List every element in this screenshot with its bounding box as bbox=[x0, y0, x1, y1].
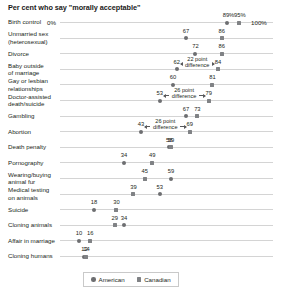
row-axis-line bbox=[60, 116, 273, 117]
row-label: Pornography bbox=[8, 159, 60, 166]
row-label: Death penalty bbox=[8, 143, 60, 150]
data-point-american bbox=[158, 192, 162, 196]
row-label: Unmarried sex (heterosexual) bbox=[8, 30, 60, 45]
data-point-american bbox=[225, 21, 229, 25]
legend-label-american: American bbox=[99, 276, 125, 283]
data-point-american bbox=[139, 130, 143, 134]
value-label-american: 67 bbox=[183, 106, 189, 112]
square-marker-icon bbox=[137, 277, 142, 282]
row-axis-line bbox=[60, 84, 273, 85]
data-point-canadian bbox=[88, 239, 92, 243]
legend-item-canadian: Canadian bbox=[137, 276, 171, 283]
value-label-canadian: 86 bbox=[219, 43, 225, 49]
data-point-american bbox=[122, 161, 126, 165]
data-point-american bbox=[92, 208, 96, 212]
row-axis-line bbox=[60, 194, 273, 195]
data-point-canadian bbox=[143, 177, 147, 181]
value-label-american: 10 bbox=[76, 230, 82, 236]
value-label-canadian: 73 bbox=[194, 106, 200, 112]
row-label: Abortion bbox=[8, 128, 60, 135]
data-point-canadian bbox=[188, 130, 192, 134]
row-axis-line bbox=[60, 38, 273, 39]
data-point-canadian bbox=[210, 83, 214, 87]
circle-marker-icon bbox=[91, 277, 96, 282]
value-label-canadian: 45 bbox=[142, 168, 148, 174]
annotation-arrowhead-left bbox=[144, 125, 147, 129]
chart-legend: American Canadian bbox=[83, 272, 179, 287]
data-point-canadian bbox=[113, 223, 117, 227]
chart-container: Per cent who say "morally acceptable" Bi… bbox=[0, 0, 281, 296]
value-label-american: 72 bbox=[192, 43, 198, 49]
data-point-canadian bbox=[220, 36, 224, 40]
data-point-american bbox=[122, 223, 126, 227]
data-point-american bbox=[169, 177, 173, 181]
annotation-arrowhead-right bbox=[212, 62, 215, 66]
row-label: Suicide bbox=[8, 206, 60, 213]
value-label-american: 60 bbox=[170, 74, 176, 80]
value-label-american: 89% bbox=[223, 12, 235, 18]
difference-annotation: 26 point difference bbox=[143, 118, 187, 130]
value-label-canadian: 49 bbox=[149, 152, 155, 158]
legend-item-american: American bbox=[91, 276, 125, 283]
legend-label-canadian: Canadian bbox=[144, 276, 171, 283]
value-label-american: 67 bbox=[183, 28, 189, 34]
data-point-canadian bbox=[195, 114, 199, 118]
data-point-canadian bbox=[207, 99, 211, 103]
row-axis-line bbox=[60, 100, 273, 101]
value-label-american: 34 bbox=[121, 215, 127, 221]
value-label-american: 18 bbox=[91, 199, 97, 205]
row-axis-line bbox=[60, 131, 273, 132]
data-point-canadian bbox=[220, 52, 224, 56]
row-axis-line bbox=[60, 53, 273, 54]
annotation-arrowhead-right bbox=[184, 125, 187, 129]
data-point-canadian bbox=[169, 145, 173, 149]
row-label: Cloning animals bbox=[8, 221, 60, 228]
value-label-canadian: 81 bbox=[209, 74, 215, 80]
annotation-arrowhead-left bbox=[180, 62, 183, 66]
data-point-canadian bbox=[114, 208, 118, 212]
value-label-canadian: 69 bbox=[187, 121, 193, 127]
row-label: Baby outside of marriage bbox=[8, 62, 60, 77]
row-axis-line bbox=[60, 162, 273, 163]
row-axis-line bbox=[60, 256, 273, 257]
value-label-canadian: 30 bbox=[113, 199, 119, 205]
row-label: Medical testing on animals bbox=[8, 186, 60, 201]
value-label-american: 53 bbox=[157, 184, 163, 190]
value-label-canadian: 79 bbox=[205, 90, 211, 96]
plot-area: Birth control0%100%89%95%Unmarried sex (… bbox=[0, 14, 281, 262]
page-title: Per cent who say "morally acceptable" bbox=[8, 3, 140, 12]
difference-annotation: 26 point difference bbox=[162, 87, 206, 99]
data-point-american bbox=[77, 239, 81, 243]
row-label: Divorce bbox=[8, 50, 60, 57]
row-label: Wearing/buying animal fur bbox=[8, 171, 60, 186]
value-label-canadian: 14 bbox=[83, 246, 89, 252]
value-label-canadian: 95% bbox=[234, 12, 246, 18]
row-axis-line bbox=[60, 178, 273, 179]
row-axis-line bbox=[60, 225, 273, 226]
data-point-canadian bbox=[131, 192, 135, 196]
value-label-american: 34 bbox=[121, 152, 127, 158]
value-label-canadian: 59 bbox=[168, 137, 174, 143]
data-point-canadian bbox=[237, 21, 241, 25]
axis-label-hundred: 100% bbox=[251, 19, 267, 26]
row-label: Affair in marriage bbox=[8, 237, 60, 244]
axis-label-zero: 0% bbox=[47, 19, 56, 26]
row-label: Cloning humans bbox=[8, 252, 60, 259]
data-point-american bbox=[158, 99, 162, 103]
row-label: Gambling bbox=[8, 112, 60, 119]
row-axis-line bbox=[60, 22, 273, 23]
data-point-canadian bbox=[150, 161, 154, 165]
data-point-american bbox=[184, 36, 188, 40]
row-label: Gay or lesbian relationships bbox=[8, 77, 60, 92]
annotation-arrowhead-right bbox=[203, 94, 206, 98]
data-point-canadian bbox=[84, 255, 88, 259]
value-label-canadian: 29 bbox=[111, 215, 117, 221]
value-label-canadian: 39 bbox=[130, 184, 136, 190]
value-label-canadian: 16 bbox=[87, 230, 93, 236]
row-axis-line bbox=[60, 69, 273, 70]
value-label-canadian: 86 bbox=[219, 28, 225, 34]
row-label: Doctor-assisted death/suicide bbox=[8, 93, 60, 108]
annotation-arrowhead-left bbox=[163, 94, 166, 98]
value-label-american: 59 bbox=[168, 168, 174, 174]
